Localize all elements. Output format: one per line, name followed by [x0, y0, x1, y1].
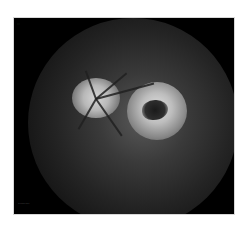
image-label-bottom-left: ·········: [18, 201, 29, 206]
image-label-top-left: ···: [17, 22, 20, 26]
fundus-image-frame: ··· ·········: [14, 18, 234, 214]
